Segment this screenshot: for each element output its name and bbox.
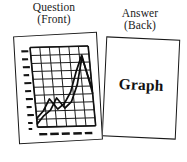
answer-card-caption: Answer (Back) <box>105 8 175 31</box>
answer-card-caption-line1: Answer <box>105 8 175 20</box>
question-card-caption-line1: Question <box>18 2 90 14</box>
flashcard-illustration: Question (Front) Answer (Back) Graph <box>0 0 187 162</box>
question-card-caption: Question (Front) <box>18 2 90 25</box>
graph-sheet <box>17 36 102 143</box>
answer-card-label: Graph <box>105 74 178 95</box>
answer-card-caption-line2: (Back) <box>105 20 175 32</box>
question-card[interactable] <box>13 32 103 145</box>
line-chart <box>17 36 102 143</box>
answer-card[interactable]: Graph <box>102 36 180 139</box>
question-card-caption-line2: (Front) <box>18 14 90 26</box>
chart-x-tick-labels <box>39 132 92 136</box>
